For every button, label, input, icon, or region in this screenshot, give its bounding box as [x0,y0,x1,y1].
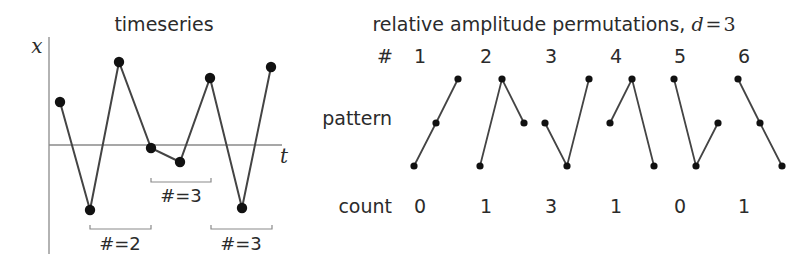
window-annotation: #=3 [151,178,211,206]
x-axis-label: t [280,144,289,168]
window-count-label: #=2 [99,233,141,254]
permutation-columns: 102133415061 [410,45,785,217]
pattern-marker [606,119,613,126]
bracket [90,225,151,229]
permutation-count: 1 [738,195,750,217]
pattern-line [610,79,654,166]
pattern-marker [714,119,721,126]
window-annotations: #=2#=3#=3 [90,178,272,254]
permutation-column-4: 41 [606,45,657,217]
permutation-index: 2 [480,45,492,67]
timeseries-marker [114,57,124,67]
pattern-marker [432,119,439,126]
timeseries-title: timeseries [114,13,213,35]
pattern-marker [628,75,635,82]
timeseries-marker [85,205,95,215]
window-count-label: #=3 [160,185,202,206]
pattern-marker [585,75,592,82]
permutation-index: 3 [545,45,557,67]
pattern-marker [454,75,461,82]
pattern-line [674,79,718,166]
title-math-eq: = [706,13,722,35]
title-math-val: 3 [724,13,736,35]
permutations-panel: relative amplitude permutations, d=3 # p… [322,13,785,217]
permutation-column-5: 50 [670,45,721,217]
pattern-line [480,79,524,166]
permutation-count: 1 [610,195,622,217]
timeseries-marker [237,203,247,213]
bracket [151,178,211,182]
pattern-marker [734,75,741,82]
pattern-marker [476,162,483,169]
timeseries-marker [266,62,276,72]
pattern-marker [778,162,785,169]
permutations-title: relative amplitude permutations, d=3 [372,13,735,35]
permutation-count: 0 [674,195,686,217]
permutation-column-2: 21 [476,45,527,217]
timeseries-panel: timeseries x t #=2#=3#=3 [31,13,289,254]
pattern-line [545,79,589,166]
pattern-marker [541,119,548,126]
permutation-count: 3 [545,195,557,217]
pattern-marker [520,119,527,126]
pattern-row-label: pattern [322,107,392,129]
permutation-index: 5 [674,45,686,67]
timeseries-marker [205,73,215,83]
window-count-label: #=3 [220,233,262,254]
window-annotation: #=3 [211,225,272,254]
permutation-index: 6 [738,45,750,67]
permutation-count: 0 [414,195,426,217]
count-row-label: count [338,195,392,217]
permutation-index: 4 [610,45,622,67]
permutations-title-text: relative amplitude permutations, [372,13,691,35]
index-row-label: # [377,45,393,67]
y-axis-label: x [31,34,42,58]
pattern-marker [692,162,699,169]
permutation-index: 1 [414,45,426,67]
permutation-entropy-figure: timeseries x t #=2#=3#=3 relative amplit… [0,0,812,262]
permutation-column-1: 10 [410,45,461,217]
title-math-d: d [691,13,703,35]
pattern-marker [756,119,763,126]
pattern-marker [650,162,657,169]
timeseries-marker [146,143,156,153]
pattern-marker [410,162,417,169]
bracket [211,225,272,229]
pattern-marker [498,75,505,82]
timeseries-marker [55,97,65,107]
timeseries-marker [175,157,185,167]
pattern-marker [563,162,570,169]
permutation-column-3: 33 [541,45,592,217]
permutation-column-6: 61 [734,45,785,217]
pattern-marker [670,75,677,82]
window-annotation: #=2 [90,225,151,254]
permutation-count: 1 [480,195,492,217]
